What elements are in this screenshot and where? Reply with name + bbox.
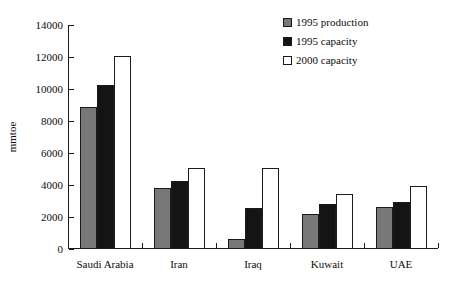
x-axis-tick-mark xyxy=(142,243,143,248)
x-axis-category-label: Saudi Arabia xyxy=(76,258,133,270)
y-axis-tick-mark xyxy=(69,89,74,90)
bar xyxy=(410,186,427,248)
bar-group xyxy=(302,194,353,248)
x-axis-tick-mark xyxy=(364,243,365,248)
y-axis-tick-label: 8000 xyxy=(41,115,63,127)
bar xyxy=(80,107,97,248)
y-axis-tick: 0 xyxy=(68,249,74,250)
y-axis-tick: 12000 xyxy=(68,57,74,58)
y-axis-tick-label: 6000 xyxy=(41,147,63,159)
y-axis-tick: 10000 xyxy=(68,89,74,90)
bar-chart: 1995 production1995 capacity2000 capacit… xyxy=(0,0,450,293)
x-axis-line xyxy=(68,248,438,249)
y-axis-tick-label: 10000 xyxy=(36,83,64,95)
x-axis-category-label: Iraq xyxy=(244,258,262,270)
y-axis-tick: 8000 xyxy=(68,121,74,122)
y-axis-tick: 4000 xyxy=(68,185,74,186)
y-axis-tick: 2000 xyxy=(68,217,74,218)
y-axis-tick-mark xyxy=(69,249,74,250)
bar-group xyxy=(228,168,279,248)
y-axis-tick: 14000 xyxy=(68,25,74,26)
bar-group xyxy=(80,56,131,248)
y-axis-tick-mark xyxy=(69,121,74,122)
y-axis-tick-mark xyxy=(69,217,74,218)
bar xyxy=(114,56,131,248)
y-axis-line xyxy=(68,25,69,249)
bar xyxy=(154,188,171,248)
plot-area: 02000400060008000100001200014000 xyxy=(68,25,438,249)
y-axis-tick-mark xyxy=(69,25,74,26)
y-axis-tick-label: 14000 xyxy=(36,19,64,31)
bar xyxy=(302,214,319,248)
bar xyxy=(188,168,205,248)
y-axis-tick-label: 0 xyxy=(58,243,64,255)
bar xyxy=(245,208,262,248)
x-axis-tick-mark xyxy=(290,243,291,248)
x-axis-tick-mark xyxy=(216,243,217,248)
bar-group xyxy=(154,168,205,248)
y-axis-tick-mark xyxy=(69,57,74,58)
y-axis-tick-label: 12000 xyxy=(36,51,64,63)
y-axis-title: mmtoe xyxy=(6,122,18,153)
bar xyxy=(171,181,188,248)
x-axis-category-label: Iran xyxy=(170,258,188,270)
x-axis-category-label: UAE xyxy=(390,258,413,270)
y-axis-tick-label: 4000 xyxy=(41,179,63,191)
bar xyxy=(376,207,393,248)
x-axis-tick-mark xyxy=(438,243,439,248)
bar xyxy=(97,85,114,248)
y-axis-tick-label: 2000 xyxy=(41,211,63,223)
bar xyxy=(228,239,245,248)
y-axis-tick-mark xyxy=(69,185,74,186)
bar-group xyxy=(376,186,427,248)
bar xyxy=(319,204,336,248)
y-axis-tick: 6000 xyxy=(68,153,74,154)
y-axis-tick-mark xyxy=(69,153,74,154)
x-axis-category-label: Kuwait xyxy=(311,258,343,270)
bar xyxy=(393,202,410,248)
bar xyxy=(262,168,279,248)
bar xyxy=(336,194,353,248)
